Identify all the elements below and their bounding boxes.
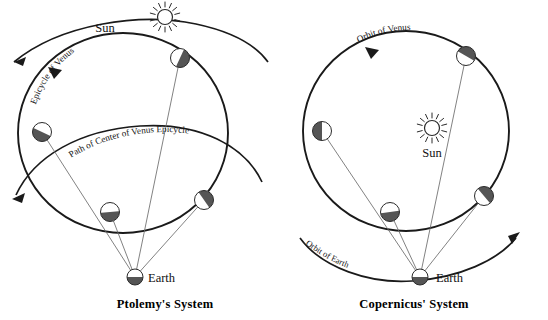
venus-ball bbox=[29, 119, 54, 144]
sight-lines-ptolemy bbox=[42, 58, 204, 277]
panel-ptolemy: Sun Epicycle of Venus Path of Center of … bbox=[12, 2, 268, 311]
ptolemy-copernicus-diagram: Sun Epicycle of Venus Path of Center of … bbox=[0, 0, 548, 320]
venus-ball bbox=[379, 201, 400, 222]
orbit-of-earth-label: Orbit of Earth bbox=[304, 238, 351, 270]
sun-glyph-ptolemy bbox=[150, 2, 179, 32]
sun-glyph-copernicus bbox=[417, 113, 446, 143]
orbit-of-earth-text: Orbit of Earth bbox=[304, 238, 351, 270]
sun-label-ptolemy: Sun bbox=[95, 21, 115, 35]
earth-ball-ptolemy bbox=[127, 269, 143, 285]
venus-orbit-direction-arrow bbox=[365, 47, 379, 59]
panel-copernicus: Sun Orbit of Venus Orbit of Earth bbox=[300, 22, 520, 311]
venus-ball bbox=[453, 43, 479, 69]
venus-ball bbox=[313, 122, 332, 141]
sun-label-copernicus: Sun bbox=[422, 146, 442, 160]
earth-orbit-direction-arrow bbox=[508, 232, 520, 244]
venus-ball bbox=[191, 187, 217, 213]
caption-ptolemy: Ptolemy's System bbox=[117, 297, 214, 311]
earth-label-copernicus: Earth bbox=[436, 271, 464, 285]
venus-ball bbox=[100, 202, 121, 223]
earth-label-ptolemy: Earth bbox=[148, 271, 176, 285]
sight-lines-copernicus bbox=[322, 56, 484, 277]
earth-ball-copernicus bbox=[412, 269, 428, 285]
orbit-of-venus-label: Orbit of Venus bbox=[355, 22, 411, 44]
epicycle-of-venus-label: Epicycle of Venus bbox=[28, 45, 76, 105]
venus-ball bbox=[167, 45, 192, 70]
deferent-arrow-lower-left bbox=[12, 193, 25, 203]
caption-copernicus: Copernicus' System bbox=[359, 297, 469, 311]
path-of-center-label: Path of Center of Venus Epicycle bbox=[67, 124, 190, 159]
epicycle-of-venus-text: Epicycle of Venus bbox=[28, 45, 76, 105]
path-of-center-text: Path of Center of Venus Epicycle bbox=[67, 124, 190, 159]
orbit-of-venus-text: Orbit of Venus bbox=[355, 22, 411, 44]
